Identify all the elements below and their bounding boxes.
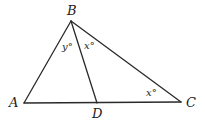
angle-label-bcd: x° [146, 87, 157, 98]
segment-bc [71, 21, 181, 102]
triangle-diagram: B A D C y° x° x° [0, 0, 205, 125]
segment-bd [71, 21, 97, 103]
segment-ac [24, 102, 181, 103]
segment-ab [24, 21, 71, 103]
vertex-label-b: B [66, 3, 77, 18]
angle-label-dbc: x° [84, 40, 95, 51]
vertex-label-d: D [91, 106, 103, 121]
angle-label-abd: y° [61, 41, 73, 52]
vertex-label-a: A [8, 95, 18, 110]
vertex-label-c: C [186, 95, 196, 110]
